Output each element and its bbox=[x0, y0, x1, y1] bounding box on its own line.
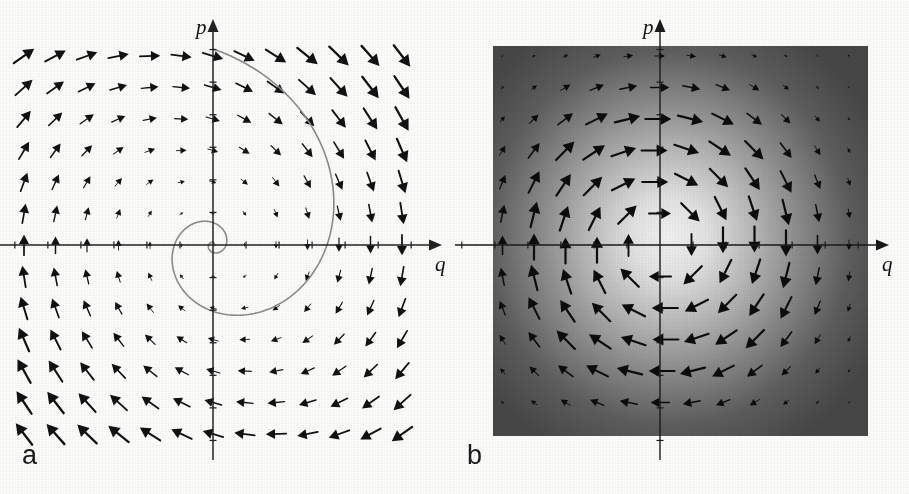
panel-b: pq b bbox=[455, 0, 909, 494]
panel-a-plot: pq bbox=[0, 0, 455, 494]
panel-a-label: a bbox=[22, 442, 37, 469]
svg-text:q: q bbox=[882, 252, 893, 276]
panel-b-label: b bbox=[467, 442, 482, 469]
svg-text:p: p bbox=[194, 15, 207, 39]
panel-a: pq a bbox=[0, 0, 455, 494]
panel-b-plot: pq bbox=[455, 0, 909, 494]
panel-a-axes: pq bbox=[0, 15, 446, 460]
figure-container: pq a pq b bbox=[0, 0, 909, 494]
panel-b-density-map bbox=[493, 46, 868, 436]
svg-text:p: p bbox=[641, 15, 654, 39]
svg-text:q: q bbox=[435, 252, 446, 276]
